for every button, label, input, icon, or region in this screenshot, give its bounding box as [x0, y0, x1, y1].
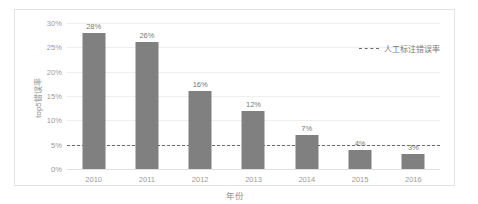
bar-value-label: 28% [86, 22, 101, 31]
x-axis-tick-label: 2012 [192, 175, 209, 184]
gridline [67, 169, 440, 170]
y-axis-title: top5错误率 [32, 78, 43, 118]
legend-dashed-line-icon [359, 48, 379, 49]
x-axis-tick-label: 2013 [245, 175, 262, 184]
bar-value-label: 3% [408, 143, 419, 152]
y-axis-tick-label: 30% [47, 19, 62, 28]
x-axis-title: 年份 [15, 189, 454, 201]
bar[interactable] [242, 111, 265, 169]
bar[interactable] [135, 42, 158, 169]
x-axis-tick-label: 2016 [405, 175, 422, 184]
bar-group: 28%2010 [67, 23, 120, 169]
x-axis-tick-label: 2014 [298, 175, 315, 184]
bar-value-label: 12% [246, 100, 261, 109]
y-axis-tick-label: 5% [51, 140, 62, 149]
y-axis-tick-label: 25% [47, 43, 62, 52]
bar-value-label: 4% [355, 139, 366, 148]
x-axis-tick-label: 2015 [352, 175, 369, 184]
bar-group: 7%2014 [280, 23, 333, 169]
chart-card: top5错误率 0%5%10%15%20%25%30% 28%201026%20… [14, 9, 455, 186]
bar[interactable] [349, 150, 372, 169]
bar-group: 26%2011 [120, 23, 173, 169]
bar-value-label: 16% [193, 80, 208, 89]
x-axis-tick-label: 2011 [139, 175, 155, 184]
bar-value-label: 7% [301, 124, 312, 133]
bar-group: 12%2013 [227, 23, 280, 169]
y-axis-tick-label: 15% [47, 92, 62, 101]
bar[interactable] [402, 154, 425, 169]
bar[interactable] [189, 91, 212, 169]
legend-label-human-error: 人工标注错误率 [384, 43, 440, 54]
bar-group: 16%2012 [174, 23, 227, 169]
y-axis-tick-label: 20% [47, 67, 62, 76]
x-axis-tick-label: 2010 [85, 175, 102, 184]
y-axis-tick-label: 10% [47, 116, 62, 125]
bar-value-label: 26% [139, 31, 154, 40]
bar[interactable] [295, 135, 318, 169]
y-axis-tick-label: 0% [51, 165, 62, 174]
legend: 人工标注错误率 [359, 43, 440, 54]
bar[interactable] [82, 33, 105, 169]
